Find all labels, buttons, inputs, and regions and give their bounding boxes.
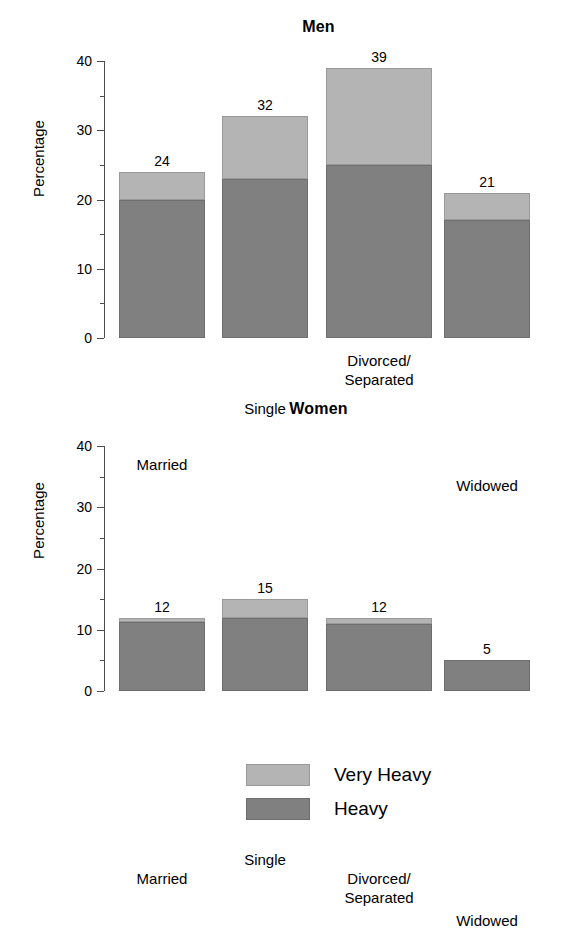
y-axis-tick-label: 0 xyxy=(32,683,92,699)
y-axis-label-men: Percentage xyxy=(30,89,47,229)
plot-area-men: 01020304024Married32Single39Divorced/Sep… xyxy=(104,61,571,338)
x-axis-category-label: Single xyxy=(205,850,325,869)
bar-segment-heavy xyxy=(119,622,205,691)
x-axis-category-label: Divorced/Separated xyxy=(305,869,453,907)
y-axis-line xyxy=(104,446,105,691)
x-axis-category-label: Married xyxy=(102,869,222,888)
y-axis-tick-minor xyxy=(100,165,104,166)
legend-swatch-very_heavy xyxy=(246,764,310,786)
bar-value-label: 39 xyxy=(326,49,432,65)
y-axis-tick-major xyxy=(97,630,104,631)
bar-2: 15Single xyxy=(222,599,308,691)
bar-4: 21Widowed xyxy=(444,193,530,338)
legend-swatch-heavy xyxy=(246,798,310,820)
y-axis-tick-label: 30 xyxy=(32,122,92,138)
bar-segment-heavy xyxy=(444,660,530,691)
y-axis-tick-minor xyxy=(100,234,104,235)
bar-segment-heavy xyxy=(326,165,432,338)
y-axis-line xyxy=(104,61,105,338)
bar-value-label: 5 xyxy=(444,641,530,657)
bar-value-label: 15 xyxy=(222,580,308,596)
bar-3: 39Divorced/Separated xyxy=(326,68,432,338)
bar-segment-heavy xyxy=(222,618,308,692)
bar-3: 12Divorced/Separated xyxy=(326,618,432,692)
chart-panel-men: Men Percentage 01020304024Married32Singl… xyxy=(0,0,587,395)
y-axis-tick-minor xyxy=(100,599,104,600)
bar-value-label: 32 xyxy=(222,97,308,113)
plot-area-women: 01020304012Married15Single12Divorced/Sep… xyxy=(104,446,571,691)
y-axis-tick-label: 20 xyxy=(32,192,92,208)
y-axis-tick-label: 10 xyxy=(32,622,92,638)
y-axis-tick-minor xyxy=(100,303,104,304)
bar-value-label: 12 xyxy=(119,599,205,615)
y-axis-tick-major xyxy=(97,61,104,62)
y-axis-tick-label: 20 xyxy=(32,561,92,577)
y-axis-tick-label: 30 xyxy=(32,499,92,515)
y-axis-tick-major xyxy=(97,338,104,339)
bar-4: 5Widowed xyxy=(444,660,530,691)
bar-segment-very-heavy xyxy=(222,599,308,617)
y-axis-tick-label: 40 xyxy=(32,438,92,454)
y-axis-tick-major xyxy=(97,691,104,692)
bar-segment-very-heavy xyxy=(222,116,308,178)
bar-segment-very-heavy xyxy=(326,68,432,165)
y-axis-tick-major xyxy=(97,507,104,508)
bar-segment-heavy xyxy=(119,200,205,339)
y-axis-tick-major xyxy=(97,269,104,270)
y-axis-tick-minor xyxy=(100,660,104,661)
y-axis-tick-minor xyxy=(100,96,104,97)
chart-title-men: Men xyxy=(0,18,587,36)
x-axis-category-label: Divorced/Separated xyxy=(305,351,453,389)
y-axis-tick-label: 10 xyxy=(32,261,92,277)
chart-title-women: Women xyxy=(0,400,587,418)
bar-value-label: 12 xyxy=(326,599,432,615)
bar-2: 32Single xyxy=(222,116,308,338)
bar-value-label: 24 xyxy=(119,153,205,169)
y-axis-tick-major xyxy=(97,569,104,570)
bar-1: 12Married xyxy=(119,618,205,692)
bar-segment-very-heavy xyxy=(444,193,530,221)
bar-value-label: 21 xyxy=(444,174,530,190)
bar-segment-very-heavy xyxy=(326,618,432,624)
chart-panel-women: Women Percentage 01020304012Married15Sin… xyxy=(0,392,587,732)
legend-label-heavy: Heavy xyxy=(334,796,388,822)
bar-segment-heavy xyxy=(444,220,530,338)
y-axis-tick-minor xyxy=(100,538,104,539)
x-axis-category-label: Widowed xyxy=(427,911,547,930)
bar-segment-very-heavy xyxy=(119,618,205,622)
bar-segment-very-heavy xyxy=(119,172,205,200)
y-axis-tick-major xyxy=(97,446,104,447)
y-axis-tick-minor xyxy=(100,477,104,478)
legend-label-very_heavy: Very Heavy xyxy=(334,762,431,788)
bar-segment-heavy xyxy=(326,624,432,691)
y-axis-tick-major xyxy=(97,130,104,131)
y-axis-tick-label: 0 xyxy=(32,330,92,346)
bar-segment-heavy xyxy=(222,179,308,338)
y-axis-tick-major xyxy=(97,200,104,201)
bar-1: 24Married xyxy=(119,172,205,338)
y-axis-tick-label: 40 xyxy=(32,53,92,69)
